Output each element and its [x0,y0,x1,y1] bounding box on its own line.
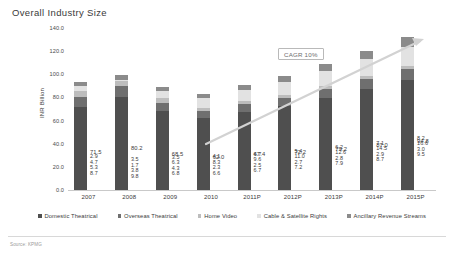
bar-segment[interactable] [278,82,291,95]
bar-segment[interactable] [319,89,332,98]
x-axis-tick-label: 2011P [232,194,273,200]
bar-base-value-label: 62.0 [213,154,225,160]
bar-segment[interactable] [319,64,332,71]
legend-item[interactable]: Home Video [198,213,237,219]
x-axis-line [68,190,436,191]
bar-value-label: 6.8 [172,171,180,177]
cagr-annotation: CAGR 10% [278,48,324,60]
bar-stack[interactable] [319,64,332,190]
bar-stack[interactable] [156,87,169,190]
y-axis-tick-label: 0.0 [34,187,64,193]
y-axis-tick-label: 140.0 [34,25,64,31]
footer-divider [8,236,446,237]
bar-base-value-label: 67.4 [254,151,266,157]
legend-swatch-icon [257,214,261,218]
bar-segment[interactable] [197,98,210,108]
bar-stack[interactable] [74,82,87,190]
chart-plot-area: INR Billion 140.0120.0100.080.060.040.02… [16,28,440,226]
y-axis-tick-label: 40.0 [34,141,64,147]
legend-label: Home Video [204,213,237,219]
bar-value-label: 9.5 [417,152,425,158]
legend-label: Ancillary Revenue Streams [354,213,426,219]
bar-base-value-label: 72.2 [294,149,306,155]
bar-segment[interactable] [360,79,373,89]
bar-segment[interactable] [115,86,128,97]
bar-base-value-label: 94.8 [417,138,429,144]
legend-label: Cable & Satellite Rights [264,213,327,219]
bar-segment[interactable] [238,90,251,101]
legend-swatch-icon [38,214,42,218]
legend-item[interactable]: Domestic Theatrical [38,213,98,219]
legend-swatch-icon [118,214,122,218]
bar-value-label: 8.7 [90,171,98,177]
bar-segment[interactable] [74,107,87,190]
legend-item[interactable]: Cable & Satellite Rights [257,213,327,219]
y-axis-tick-label: 20.0 [34,164,64,170]
legend-swatch-icon [347,214,351,218]
x-axis-tick-label: 2008 [109,194,150,200]
bar-value-labels: 3.56.34.36.8 [172,155,180,177]
bar-stack[interactable] [115,75,128,190]
legend-item[interactable]: Ancillary Revenue Streams [347,213,426,219]
bar-segment[interactable] [197,111,210,119]
x-axis-labels: 20072008200920102011P2012P2013P2014P2015… [68,194,436,208]
x-axis-tick-label: 2012P [272,194,313,200]
bar-segment[interactable] [401,80,414,190]
bar-stack[interactable] [401,37,414,190]
bar-segment[interactable] [401,47,414,66]
bar-segment[interactable] [156,111,169,190]
slide-canvas: Overall Industry Size INR Billion 140.01… [0,0,454,253]
y-axis-tick-label: 120.0 [34,48,64,54]
page-title: Overall Industry Size [12,7,107,18]
bar-stack[interactable] [238,85,251,190]
bar-segment[interactable] [74,97,87,107]
x-axis-tick-label: 2009 [150,194,191,200]
bar-value-label: 8.7 [376,157,384,163]
y-axis-tick-label: 80.0 [34,94,64,100]
x-axis-tick-label: 2015P [395,194,436,200]
bar-segment[interactable] [360,59,373,76]
x-axis-tick-label: 2010 [191,194,232,200]
bar-stack[interactable] [197,94,210,190]
bars-canvas: 2.94.75.38.771.53.51.73.89.880.23.56.34.… [68,28,436,190]
bar-base-value-label: 79.2 [335,146,347,152]
bar-segment[interactable] [278,98,291,106]
bar-segment[interactable] [360,89,373,190]
bar-value-labels: 3.51.73.89.8 [131,157,139,179]
bar-segment[interactable] [238,112,251,190]
bar-base-value-label: 68.5 [172,151,184,157]
legend-item[interactable]: Overseas Theatrical [118,213,178,219]
y-axis-tick-label: 100.0 [34,71,64,77]
bar-base-value-label: 80.2 [131,145,143,151]
bar-segment[interactable] [197,118,210,190]
legend-label: Domestic Theatrical [45,213,98,219]
bar-segment[interactable] [319,71,332,86]
bar-value-label: 7.9 [335,161,343,167]
bar-value-label: 6.6 [213,171,221,177]
y-axis-tick-label: 60.0 [34,118,64,124]
bar-segment[interactable] [156,91,169,98]
y-axis-ticks: 140.0120.0100.080.060.040.020.00.0 [34,28,64,190]
bar-stack[interactable] [278,76,291,190]
bar-value-label: 7.2 [294,165,302,171]
bar-segment[interactable] [278,106,291,190]
bar-value-labels: 2.94.75.38.7 [90,154,98,176]
bar-value-label: 9.8 [131,174,139,180]
bar-value-label: 6.7 [254,168,262,174]
bar-base-value-label: 71.5 [90,149,102,155]
bar-segment[interactable] [360,51,373,59]
bar-segment[interactable] [238,104,251,112]
bar-segment[interactable] [401,69,414,80]
bar-segment[interactable] [115,97,128,190]
legend-swatch-icon [198,214,202,218]
bar-segment[interactable] [401,37,414,46]
footer-note: Source: KPMG [10,242,42,247]
chart-legend: Domestic TheatricalOverseas TheatricalHo… [20,209,444,223]
x-axis-tick-label: 2007 [68,194,109,200]
bar-stack[interactable] [360,51,373,190]
x-axis-tick-label: 2014P [354,194,395,200]
bar-segment[interactable] [156,103,169,111]
legend-label: Overseas Theatrical [124,213,178,219]
bar-segment[interactable] [319,98,332,190]
bar-base-value-label: 87.0 [376,142,388,148]
